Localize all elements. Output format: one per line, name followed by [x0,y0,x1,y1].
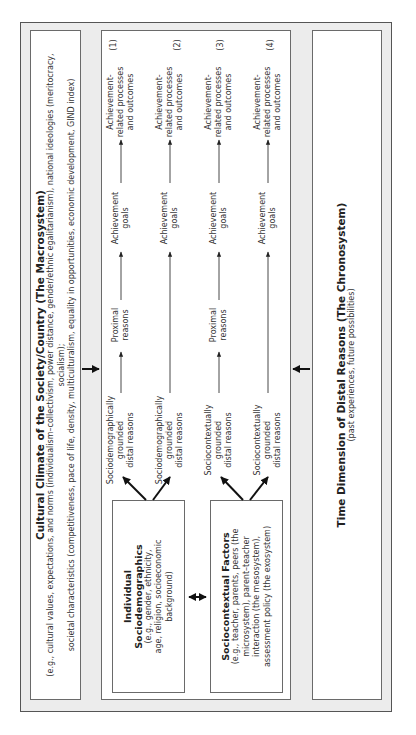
arrow-individual-to-distal-1 [123,477,146,500]
arrows-layer [0,0,416,735]
arrow-sociocontextual-to-distal-4 [250,477,268,500]
diagram-canvas: Cultural Climate of the Society/Country … [0,0,416,735]
arrow-sociocontextual-to-distal-3 [221,477,243,500]
arrow-individual-to-distal-2 [153,477,170,500]
